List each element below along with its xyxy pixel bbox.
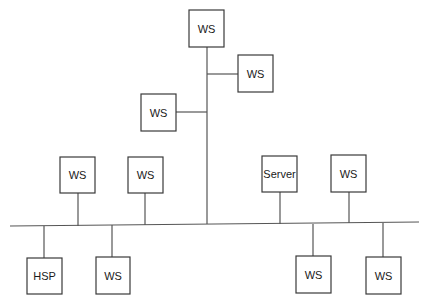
ws-top-label: WS <box>198 23 216 35</box>
ws-upper-1-label: WS <box>69 169 87 181</box>
node-ws-lower-3: WS <box>366 257 401 294</box>
node-ws-top: WS <box>189 10 224 47</box>
node-server: Server <box>262 156 297 192</box>
ws-lower-3-label: WS <box>375 270 393 282</box>
network-bus-line <box>10 222 419 226</box>
node-hsp: HSP <box>27 258 62 294</box>
ws-upper-3-label: WS <box>340 168 358 180</box>
node-ws-lower-2: WS <box>296 256 331 293</box>
network-nodes: WSWSWSWSWSServerWSHSPWSWSWS <box>27 10 401 294</box>
ws-trunk-left-label: WS <box>150 107 168 119</box>
node-ws-upper-2: WS <box>128 157 163 193</box>
connection-lines <box>10 47 419 258</box>
node-ws-trunk-left: WS <box>141 94 176 131</box>
node-ws-upper-3: WS <box>331 155 366 192</box>
node-ws-trunk-right: WS <box>238 55 273 92</box>
network-diagram: WSWSWSWSWSServerWSHSPWSWSWS <box>0 0 425 302</box>
node-ws-upper-1: WS <box>60 157 95 193</box>
ws-upper-2-label: WS <box>137 169 155 181</box>
ws-lower-1-label: WS <box>104 270 122 282</box>
node-ws-lower-1: WS <box>96 257 130 294</box>
server-label: Server <box>263 168 296 180</box>
hsp-label: HSP <box>33 270 56 282</box>
ws-trunk-right-label: WS <box>247 68 265 80</box>
ws-lower-2-label: WS <box>305 269 323 281</box>
